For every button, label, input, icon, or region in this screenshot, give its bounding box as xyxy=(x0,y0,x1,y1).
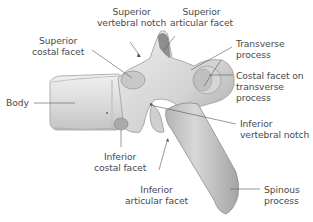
label-inferior-costal-facet: Inferior costal facet xyxy=(94,151,146,173)
arrowhead-icon xyxy=(137,53,141,57)
label-spinous-process: Spinous process xyxy=(264,184,300,206)
label-superior-articular-facet: Superior articular facet xyxy=(170,6,233,28)
arrowhead-icon xyxy=(166,138,169,142)
inferior-articular-process xyxy=(150,104,164,132)
label-superior-vertebral-notch: Superior vertebral notch xyxy=(97,6,166,28)
vertebra-diagram: Superior vertebral notch Superior articu… xyxy=(0,0,313,222)
label-transverse-process: Transverse process xyxy=(236,38,285,60)
label-inferior-articular-facet: Inferior articular facet xyxy=(125,184,188,206)
label-superior-costal-facet: Superior costal facet xyxy=(32,35,84,57)
label-body: Body xyxy=(6,97,29,108)
label-inferior-vertebral-notch: Inferior vertebral notch xyxy=(240,118,309,140)
label-costal-facet-on-transverse-process: Costal facet on transverse process xyxy=(236,70,304,103)
